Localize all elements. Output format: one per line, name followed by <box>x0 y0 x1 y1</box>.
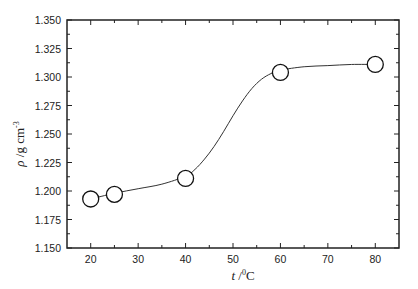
data-point-marker <box>272 64 288 80</box>
y-axis-label: ρ /g cm-3 <box>12 121 27 167</box>
y-tick-label: 1.225 <box>35 157 61 169</box>
x-axis-ticks: 20304050607080 <box>85 20 381 265</box>
x-tick-label: 60 <box>275 253 287 265</box>
density-vs-temperature-chart: 1.1501.1751.2001.2251.2501.2751.3001.325… <box>0 0 418 289</box>
y-tick-label: 1.250 <box>35 128 61 140</box>
x-tick-label: 40 <box>180 253 192 265</box>
y-tick-label: 1.175 <box>35 214 61 226</box>
y-tick-label: 1.325 <box>35 43 61 55</box>
y-tick-label: 1.150 <box>35 242 61 254</box>
y-axis-ticks: 1.1501.1751.2001.2251.2501.2751.3001.325… <box>35 14 399 254</box>
data-point-marker <box>178 170 194 186</box>
x-axis-label: t /0C <box>231 268 254 283</box>
x-tick-label: 50 <box>227 253 239 265</box>
x-tick-label: 20 <box>85 253 97 265</box>
y-tick-label: 1.200 <box>35 185 61 197</box>
data-point-marker <box>367 56 383 72</box>
data-markers <box>83 56 384 207</box>
data-point-marker <box>106 186 122 202</box>
x-tick-label: 70 <box>322 253 334 265</box>
data-point-marker <box>83 191 99 207</box>
y-tick-label: 1.300 <box>35 71 61 83</box>
y-tick-label: 1.350 <box>35 14 61 26</box>
plot-frame <box>67 20 399 248</box>
fit-curve <box>91 64 376 199</box>
x-tick-label: 30 <box>132 253 144 265</box>
y-tick-label: 1.275 <box>35 100 61 112</box>
x-tick-label: 80 <box>369 253 381 265</box>
